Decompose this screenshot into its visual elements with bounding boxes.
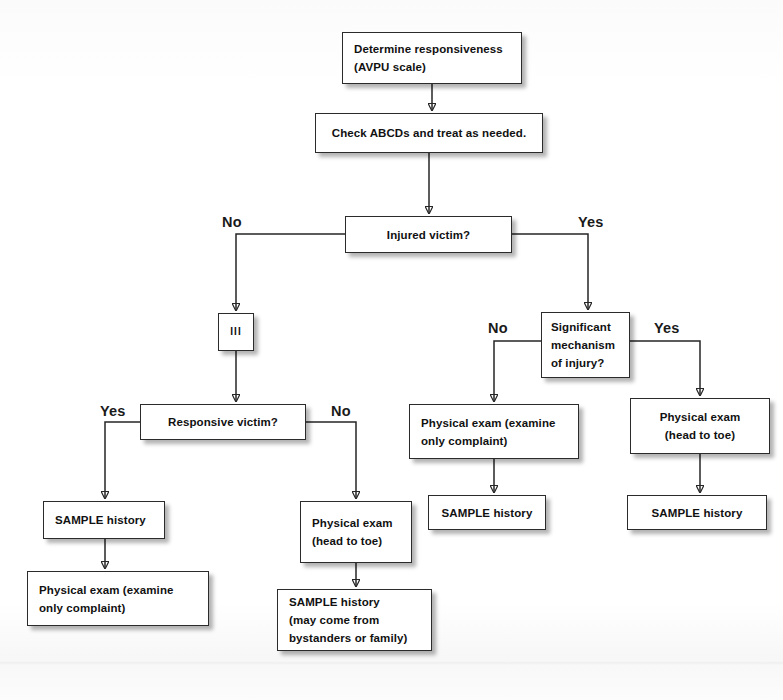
node-significant-mechanism-line2: mechanism <box>551 336 620 354</box>
node-determine-responsiveness-line1: Determine responsiveness <box>354 40 510 58</box>
node-responsive-victim[interactable]: Responsive victim? <box>140 404 306 440</box>
branch-label-mechanism-yes: Yes <box>654 320 680 336</box>
node-mid-sample-history-bystanders-line2: (may come from <box>289 611 420 629</box>
node-mid-physical-exam-head-to-toe-line2: (head to toe) <box>312 532 400 550</box>
branch-label-responsive-no: No <box>331 403 351 419</box>
node-mid-physical-exam-head-to-toe-line1: Physical exam <box>312 514 400 532</box>
node-right-sample-history-line1: SAMPLE history <box>442 504 533 522</box>
page-scan-line-artifact <box>0 661 783 665</box>
edge-injured-no <box>236 234 345 310</box>
node-right-physical-exam-complaint-line1: Physical exam (examine <box>421 414 567 432</box>
node-check-abcds-line1: Check ABCDs and treat as needed. <box>332 124 527 142</box>
node-far-right-sample-history-line1: SAMPLE history <box>652 504 743 522</box>
node-determine-responsiveness[interactable]: Determine responsiveness (AVPU scale) <box>342 32 522 84</box>
edge-injured-yes <box>512 234 588 309</box>
branch-label-responsive-yes: Yes <box>100 403 126 419</box>
node-significant-mechanism-line1: Significant <box>551 318 620 336</box>
branch-label-mechanism-no: No <box>488 320 508 336</box>
node-artifact-box-line1: III <box>230 323 241 341</box>
branch-label-injured-yes: Yes <box>578 214 604 230</box>
node-right-physical-exam-complaint[interactable]: Physical exam (examine only complaint) <box>409 404 579 459</box>
node-right-physical-exam-complaint-line2: only complaint) <box>421 432 567 450</box>
node-mid-sample-history-bystanders[interactable]: SAMPLE history (may come from bystanders… <box>277 589 432 651</box>
node-far-right-sample-history[interactable]: SAMPLE history <box>627 495 767 530</box>
flowchart-page: Determine responsiveness (AVPU scale) Ch… <box>0 0 783 700</box>
node-mid-sample-history-bystanders-line3: bystanders or family) <box>289 629 420 647</box>
node-injured-victim-line1: Injured victim? <box>387 226 470 244</box>
node-check-abcds[interactable]: Check ABCDs and treat as needed. <box>315 113 543 153</box>
node-left-physical-exam-complaint[interactable]: Physical exam (examine only complaint) <box>27 571 209 626</box>
node-determine-responsiveness-line2: (AVPU scale) <box>354 58 510 76</box>
node-left-physical-exam-complaint-line1: Physical exam (examine <box>39 581 197 599</box>
node-significant-mechanism[interactable]: Significant mechanism of injury? <box>541 312 630 378</box>
branch-label-injured-no: No <box>222 214 242 230</box>
node-right-sample-history[interactable]: SAMPLE history <box>428 495 546 530</box>
node-mid-sample-history-bystanders-line1: SAMPLE history <box>289 593 420 611</box>
node-far-right-physical-exam-head-to-toe[interactable]: Physical exam (head to toe) <box>630 398 770 454</box>
node-artifact-box[interactable]: III <box>218 313 254 351</box>
node-far-right-physical-exam-head-to-toe-line2: (head to toe) <box>665 426 735 444</box>
edge-responsive-no <box>306 422 356 498</box>
edge-mechanism-yes <box>630 341 700 395</box>
node-responsive-victim-line1: Responsive victim? <box>168 413 278 431</box>
node-injured-victim[interactable]: Injured victim? <box>345 216 512 253</box>
node-mid-physical-exam-head-to-toe[interactable]: Physical exam (head to toe) <box>300 501 412 563</box>
edge-mechanism-no <box>494 341 541 401</box>
node-left-physical-exam-complaint-line2: only complaint) <box>39 599 197 617</box>
node-left-sample-history-line1: SAMPLE history <box>55 511 153 529</box>
node-significant-mechanism-line3: of injury? <box>551 354 620 372</box>
node-left-sample-history[interactable]: SAMPLE history <box>43 501 165 539</box>
node-far-right-physical-exam-head-to-toe-line1: Physical exam <box>660 408 741 426</box>
edge-responsive-yes <box>105 422 140 498</box>
